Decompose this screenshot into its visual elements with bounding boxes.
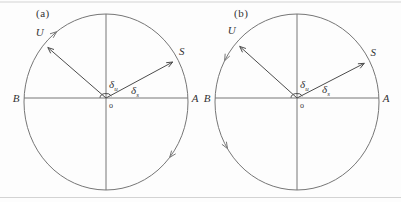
figure-canvas: BAoUSδuδsBAoUSδuδs (a) (b)	[0, 0, 401, 202]
b-vector-u-line	[240, 46, 297, 98]
a-label-origin: o	[109, 101, 113, 110]
b-rotation-arrow-1-icon	[225, 54, 230, 61]
a-vector-s-line	[106, 62, 173, 98]
panel-b-label: (b)	[234, 7, 248, 19]
a-label-B: B	[13, 92, 20, 104]
b-label-delta-s: δs	[322, 83, 330, 98]
panel-a-diagram: BAoUSδuδs	[13, 14, 199, 190]
b-label-A: A	[382, 92, 390, 104]
panel-b-diagram: BAoUSδuδs	[204, 14, 390, 190]
panel-a-label: (a)	[36, 7, 50, 19]
b-label-s: S	[371, 46, 377, 58]
b-label-B: B	[204, 92, 211, 104]
a-label-A: A	[191, 92, 199, 104]
b-label-delta-u: δu	[300, 78, 309, 93]
a-label-u: U	[36, 26, 45, 38]
a-label-delta-s: δs	[131, 84, 139, 99]
a-vector-u-line	[48, 48, 106, 99]
a-label-s: S	[179, 45, 185, 57]
a-label-delta-u: δu	[109, 78, 118, 93]
figure-svg: BAoUSδuδsBAoUSδuδs	[0, 0, 401, 202]
b-vector-s-line	[297, 63, 364, 98]
b-label-u: U	[228, 24, 237, 36]
b-label-origin: o	[300, 101, 304, 110]
